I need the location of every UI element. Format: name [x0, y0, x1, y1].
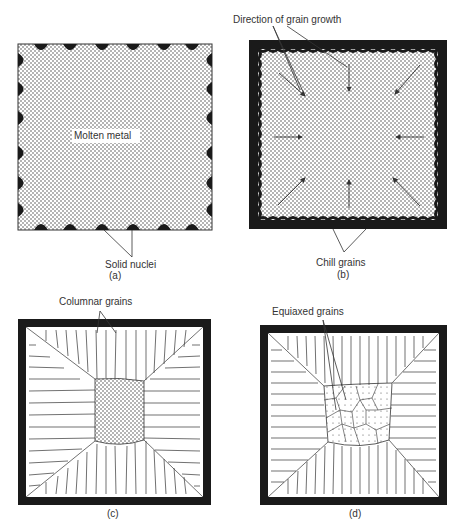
caption-a: (a): [109, 270, 121, 281]
panel-b: [249, 26, 447, 252]
panel-d: [260, 320, 447, 505]
label-columnar-grains: Columnar grains: [59, 296, 132, 307]
panel-c: [18, 311, 211, 505]
caption-d: (d): [349, 508, 361, 519]
label-molten-metal: Molten metal: [74, 130, 131, 141]
molten-core: [258, 49, 438, 220]
caption-c: (c): [107, 508, 119, 519]
caption-b: (b): [337, 269, 349, 280]
label-solid-nuclei: Solid nuclei: [105, 259, 156, 270]
label-equiaxed-grains: Equiaxed grains: [272, 306, 344, 317]
leader-lines: [104, 230, 132, 257]
label-direction-of-grain-growth: Direction of grain growth: [233, 14, 341, 25]
panel-a: [18, 44, 212, 257]
molten-core: [95, 378, 144, 444]
solidification-diagram: [0, 0, 463, 531]
label-chill-grains: Chill grains: [316, 257, 365, 268]
